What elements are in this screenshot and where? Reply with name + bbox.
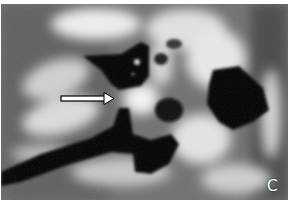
- ct-scan-figure: C: [1, 4, 288, 200]
- panel-label: C: [267, 178, 278, 194]
- ct-scan-image: [1, 4, 288, 200]
